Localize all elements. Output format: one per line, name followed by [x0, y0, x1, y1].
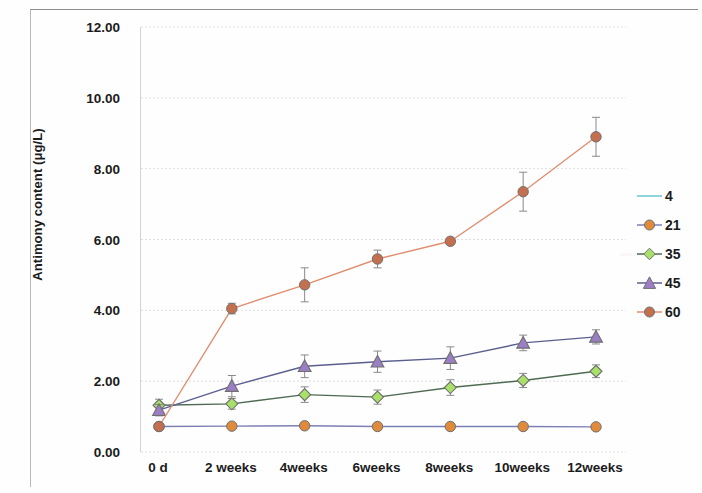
series-line: [159, 137, 596, 427]
legend-swatch-60-icon: [636, 303, 663, 321]
legend-label-4: 4: [663, 188, 673, 204]
data-point-marker: [226, 398, 238, 410]
legend-label-21: 21: [663, 217, 681, 233]
data-point-marker: [227, 421, 237, 431]
chart-legend: 421354560: [636, 181, 698, 326]
y-tick-label: 10.00: [58, 90, 120, 105]
data-point-marker: [154, 421, 164, 431]
x-tick-label: 4weeks: [280, 460, 328, 475]
y-axis-tick-labels: 0.002.004.006.008.0010.0012.00: [58, 0, 120, 493]
legend-swatch-4-icon: [636, 187, 663, 205]
data-point-marker: [591, 132, 601, 142]
legend-item-21[interactable]: 21: [636, 210, 698, 239]
data-point-marker: [445, 236, 455, 246]
data-point-marker: [299, 389, 311, 401]
data-point-marker: [372, 254, 382, 264]
y-tick-label: 8.00: [58, 161, 120, 176]
plot-area: [140, 27, 625, 452]
chart-figure: Antimony content (μg/L) 0.002.004.006.00…: [0, 0, 702, 493]
y-tick-label: 2.00: [58, 374, 120, 389]
x-tick-label: 8weeks: [425, 460, 473, 475]
legend-swatch-35-icon: [636, 245, 663, 263]
data-point-marker: [372, 421, 382, 431]
data-point-marker: [372, 391, 384, 403]
x-axis-tick-labels: 0 d2 weeks4weeks6weeks8weeks10weeks12wee…: [140, 460, 625, 486]
legend-label-35: 35: [663, 246, 681, 262]
data-point-marker: [590, 330, 603, 342]
data-point-marker: [591, 422, 601, 432]
y-tick-label: 4.00: [58, 303, 120, 318]
data-point-marker: [518, 421, 528, 431]
legend-item-35[interactable]: 35: [636, 239, 698, 268]
series-21: [154, 421, 601, 432]
data-point-marker: [299, 421, 309, 431]
y-tick-label: 0.00: [58, 445, 120, 460]
x-tick-label: 10weeks: [494, 460, 550, 475]
x-tick-label: 2 weeks: [205, 460, 257, 475]
data-point-marker: [444, 382, 456, 394]
data-point-marker: [299, 280, 309, 290]
y-tick-label: 12.00: [58, 20, 120, 35]
legend-label-45: 45: [663, 275, 681, 291]
y-tick-label: 6.00: [58, 232, 120, 247]
data-point-marker: [517, 374, 529, 386]
x-tick-label: 12weeks: [567, 460, 623, 475]
series-60: [154, 117, 601, 431]
legend-item-60[interactable]: 60: [636, 297, 698, 326]
legend-swatch-45-icon: [636, 274, 663, 292]
y-axis-title: Antimony content (μg/L): [30, 90, 45, 320]
legend-label-60: 60: [663, 304, 681, 320]
plot-svg: [141, 27, 626, 452]
x-tick-label: 6weeks: [352, 460, 400, 475]
data-point-marker: [590, 365, 602, 377]
data-point-marker: [227, 303, 237, 313]
legend-item-4[interactable]: 4: [636, 181, 698, 210]
data-point-marker: [445, 421, 455, 431]
x-tick-label: 0 d: [148, 460, 168, 475]
legend-item-45[interactable]: 45: [636, 268, 698, 297]
data-point-marker: [518, 186, 528, 196]
legend-swatch-21-icon: [636, 216, 663, 234]
